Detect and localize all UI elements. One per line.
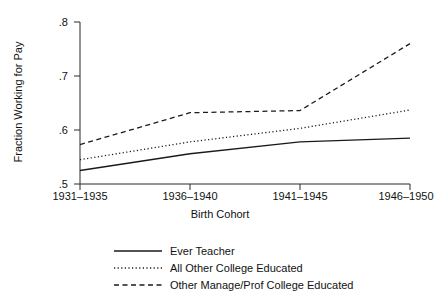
legend-key-solid-icon — [112, 245, 166, 257]
legend-item-ever-teacher: Ever Teacher — [112, 242, 412, 259]
x-tick-label-1931-1935: 1931–1935 — [52, 190, 107, 202]
legend-key-dotted-icon — [112, 262, 166, 274]
legend-item-all-other-college-educated: All Other College Educated — [112, 259, 412, 276]
y-axis-ticks — [74, 22, 80, 184]
x-tick-label-1936-1940: 1936–1940 — [162, 190, 217, 202]
legend-label-all-other-college-educated: All Other College Educated — [166, 262, 303, 274]
y-tick-label-06: .6 — [59, 125, 68, 136]
x-tick-label-1941-1945: 1941–1945 — [272, 190, 327, 202]
series-line-other-manage-prof-college-educated — [80, 44, 410, 145]
chart-legend: Ever Teacher All Other College Educated … — [112, 242, 412, 293]
chart-page: .8 .7 .6 .5 1931–1935 1936–1940 1941–194… — [0, 0, 440, 299]
legend-label-ever-teacher: Ever Teacher — [166, 245, 235, 257]
series-line-all-other-college-educated — [80, 110, 410, 160]
y-tick-label-05: .5 — [59, 179, 68, 190]
series-layer — [80, 44, 410, 171]
x-tick-label-1946-1950: 1946–1950 — [378, 190, 433, 202]
legend-label-other-manage-prof-college-educated: Other Manage/Prof College Educated — [166, 279, 353, 291]
legend-item-other-manage-prof-college-educated: Other Manage/Prof College Educated — [112, 276, 412, 293]
y-tick-label-07: .7 — [59, 71, 68, 82]
x-axis-ticks — [80, 184, 410, 190]
y-axis-title: Fraction Working for Pay — [12, 22, 24, 182]
y-axis-tick-labels: .8 .7 .6 .5 — [36, 0, 68, 299]
x-axis-title: Birth Cohort — [0, 208, 440, 220]
y-tick-label-08: .8 — [59, 17, 68, 28]
legend-key-dashed-icon — [112, 279, 166, 291]
series-line-ever-teacher — [80, 138, 410, 170]
